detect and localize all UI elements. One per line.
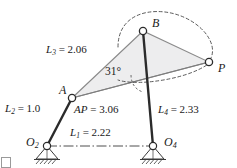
angle-label-31deg: 31° xyxy=(105,66,121,78)
dimension-label-L4: L4 = 2.33 xyxy=(158,104,199,115)
joint-B xyxy=(139,27,146,34)
dimension-label-L3: L3 = 2.06 xyxy=(46,44,87,55)
ground-support-O4 xyxy=(140,142,166,164)
coupler-triangle-ABP xyxy=(72,31,209,98)
dimension-label-AP: AP = 3.06 xyxy=(74,104,118,115)
point-label-B: B xyxy=(152,17,159,29)
coupler-point-P xyxy=(205,58,212,65)
dimension-label-L2: L2 = 1.0 xyxy=(5,103,40,114)
joint-A xyxy=(68,94,75,101)
point-label-O2: O2 xyxy=(26,136,39,148)
corner-crop-mark xyxy=(1,157,11,168)
crank-link-L2 xyxy=(47,98,72,146)
dimension-label-L1: L1 = 2.22 xyxy=(70,127,111,138)
mechanism-figure: O2 A B O4 P L3 = 2.06 L2 = 1.0 AP = 3.06… xyxy=(0,0,237,168)
point-label-A: A xyxy=(59,84,66,96)
point-label-O4: O4 xyxy=(164,136,177,148)
point-label-P: P xyxy=(218,62,225,74)
